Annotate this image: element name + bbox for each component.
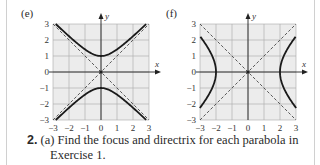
y-tick-label: 0 xyxy=(45,67,50,77)
y-tick-label: 2 xyxy=(45,35,50,45)
exercise-2: 2. (a) Find the focus and directrix for … xyxy=(27,133,317,163)
exercise-number: 2. xyxy=(27,133,37,147)
origin-dot xyxy=(99,70,102,73)
y-tick-label: −2 xyxy=(186,99,196,109)
x-axis-arrow-icon xyxy=(302,70,308,75)
x-tick-label: 0 xyxy=(99,123,104,133)
exercise-text-line1: Find the focus and directrix for each pa… xyxy=(58,133,299,147)
x-tick-label: −1 xyxy=(227,123,237,133)
y-tick-label: −2 xyxy=(39,99,49,109)
x-axis-arrow-icon xyxy=(155,70,161,75)
x-axis-label: x xyxy=(154,59,159,69)
x-tick-label: −1 xyxy=(80,123,90,133)
x-axis-label: x xyxy=(301,59,306,69)
y-tick-label: 3 xyxy=(192,19,197,29)
y-tick-label: 3 xyxy=(45,19,50,29)
y-axis-label: y xyxy=(251,11,256,21)
exercise-text-line2: Exercise 1. xyxy=(27,148,317,163)
y-tick-label: 2 xyxy=(192,35,197,45)
x-tick-label: 2 xyxy=(278,123,283,133)
y-tick-label: −1 xyxy=(39,83,49,93)
x-tick-label: 0 xyxy=(246,123,251,133)
y-tick-label: −1 xyxy=(186,83,196,93)
x-tick-label: 1 xyxy=(115,123,120,133)
x-tick-label: 2 xyxy=(131,123,136,133)
x-tick-label: −2 xyxy=(64,123,74,133)
y-axis-arrow-icon xyxy=(99,13,104,19)
origin-dot xyxy=(246,70,249,73)
x-tick-label: 1 xyxy=(262,123,267,133)
y-tick-label: 1 xyxy=(45,51,50,61)
x-tick-label: 3 xyxy=(147,123,152,133)
y-axis-arrow-icon xyxy=(246,13,251,19)
y-axis-label: y xyxy=(104,11,109,21)
y-tick-label: 1 xyxy=(192,51,197,61)
y-tick-label: 0 xyxy=(192,67,197,77)
x-tick-label: −3 xyxy=(48,123,58,133)
exercise-part: (a) xyxy=(41,133,55,147)
x-tick-label: 3 xyxy=(294,123,299,133)
x-tick-label: −2 xyxy=(211,123,221,133)
x-tick-label: −3 xyxy=(195,123,205,133)
